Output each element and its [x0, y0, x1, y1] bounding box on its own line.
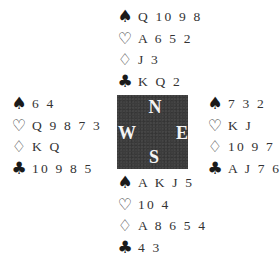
north-diamonds-cards: J 3 — [138, 49, 160, 71]
south-diamonds-cards: A 8 6 5 4 — [138, 215, 207, 237]
east-spades-cards: 7 3 2 — [228, 93, 266, 115]
spade-icon: ♠ — [117, 6, 133, 28]
west-clubs-cards: 10 9 8 5 — [32, 158, 93, 180]
diamond-icon: ♢ — [11, 136, 27, 158]
compass-east-label: E — [172, 124, 192, 142]
west-spades-cards: 6 4 — [32, 93, 55, 115]
compass-box: N W E S — [117, 95, 188, 169]
heart-icon: ♡ — [117, 28, 133, 50]
club-icon: ♣ — [117, 71, 133, 93]
north-hearts-cards: A 6 5 2 — [138, 28, 193, 50]
heart-icon: ♡ — [11, 115, 27, 137]
compass-north-label: N — [145, 98, 165, 116]
spade-icon: ♠ — [117, 172, 133, 194]
north-clubs-cards: K Q 2 — [138, 71, 182, 93]
compass-south-label: S — [144, 148, 164, 166]
diamond-icon: ♢ — [117, 49, 133, 71]
west-diamonds-cards: K Q — [32, 136, 61, 158]
compass-west-label: W — [117, 124, 137, 142]
east-clubs-cards: A J 7 6 — [228, 158, 280, 180]
east-hearts-cards: K J — [228, 115, 253, 137]
spade-icon: ♠ — [207, 93, 223, 115]
south-clubs-cards: 4 3 — [138, 237, 161, 256]
diamond-icon: ♢ — [117, 215, 133, 237]
north-spades-cards: Q 10 9 8 — [138, 6, 202, 28]
club-icon: ♣ — [117, 237, 133, 256]
east-diamonds-cards: 10 9 7 2 — [228, 136, 280, 158]
spade-icon: ♠ — [11, 93, 27, 115]
west-hearts-cards: Q 9 8 7 3 — [32, 115, 102, 137]
south-spades-cards: A K J 5 — [138, 172, 194, 194]
heart-icon: ♡ — [117, 194, 133, 216]
heart-icon: ♡ — [207, 115, 223, 137]
club-icon: ♣ — [207, 158, 223, 180]
south-hearts-cards: 10 4 — [138, 194, 170, 216]
diamond-icon: ♢ — [207, 136, 223, 158]
club-icon: ♣ — [11, 158, 27, 180]
